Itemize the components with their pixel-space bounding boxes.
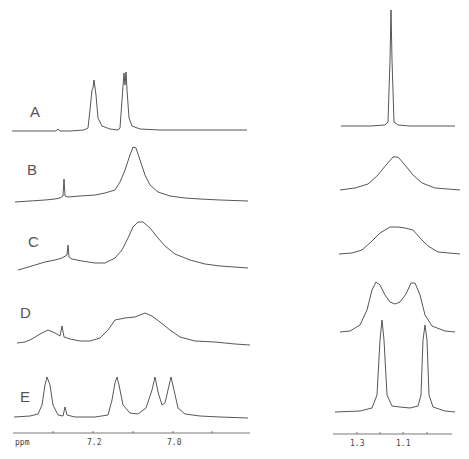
trace-C-aliphatic bbox=[339, 227, 460, 254]
label-A: A bbox=[30, 103, 40, 120]
trace-D-aromatic bbox=[17, 313, 250, 345]
nmr-figure: A B C D E ppm 7.2 7.0 bbox=[0, 0, 469, 459]
tick-7-2: 7.2 bbox=[87, 438, 102, 447]
left-x-axis: ppm 7.2 7.0 bbox=[13, 431, 250, 447]
trace-B-aliphatic bbox=[340, 157, 460, 190]
label-C: C bbox=[28, 233, 39, 250]
axis-unit-ppm: ppm bbox=[15, 438, 30, 447]
label-D: D bbox=[20, 304, 31, 321]
tick-1-3: 1.3 bbox=[350, 439, 365, 448]
right-x-axis: 1.3 1.1 bbox=[333, 432, 452, 448]
trace-B-aromatic bbox=[15, 147, 248, 202]
aliphatic-panel bbox=[335, 10, 460, 412]
tick-1-1: 1.1 bbox=[396, 439, 411, 448]
label-B: B bbox=[27, 161, 37, 178]
label-E: E bbox=[20, 388, 30, 405]
trace-A-aromatic bbox=[12, 72, 247, 131]
trace-D-aliphatic bbox=[340, 282, 455, 332]
trace-C-aromatic bbox=[18, 222, 248, 270]
tick-7-0: 7.0 bbox=[167, 438, 182, 447]
aromatic-panel bbox=[12, 72, 250, 418]
trace-E-aromatic bbox=[14, 377, 248, 418]
trace-E-aliphatic bbox=[335, 320, 455, 412]
trace-A-aliphatic bbox=[341, 10, 455, 126]
